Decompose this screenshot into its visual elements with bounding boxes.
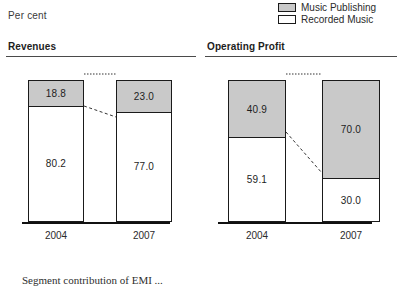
legend-label-recorded-music: Recorded Music (301, 14, 373, 25)
bar-value-music-publishing-2004: 40.9 (247, 104, 267, 115)
bar-revenues-2004[interactable]: 18.8 80.2 (28, 80, 84, 222)
bar-value-recorded-music-2004: 80.2 (46, 158, 66, 169)
chart-panel-operating-profit: 40.9 59.1 70.0 30.0 2004 2007 (200, 62, 402, 260)
bar-value-recorded-music-2007: 77.0 (134, 161, 154, 172)
bar-segment-music-publishing-2007[interactable]: 23.0 (116, 80, 172, 113)
bar-segment-recorded-music-2007[interactable]: 77.0 (116, 113, 172, 222)
legend-swatch-music-publishing (278, 3, 296, 12)
legend-swatch-recorded-music (278, 15, 296, 24)
tick-label-revenues-2007: 2007 (116, 230, 172, 241)
connector-split-dashed-operating-profit (286, 132, 322, 173)
axis-baseline-revenues (22, 222, 170, 224)
axis-baseline-operating-profit (218, 222, 372, 224)
plot-area-revenues: 18.8 80.2 23.0 77.0 2004 2007 (0, 62, 200, 242)
panel-rule-revenues (6, 56, 196, 57)
bar-segment-music-publishing-2004[interactable]: 40.9 (228, 80, 286, 138)
bar-value-recorded-music-2004: 59.1 (247, 174, 267, 185)
panel-heading-revenues: Revenues (8, 41, 56, 52)
bar-value-recorded-music-2007: 30.0 (341, 195, 361, 206)
legend-item-recorded-music: Recorded Music (278, 14, 396, 25)
bar-segment-music-publishing-2004[interactable]: 18.8 (28, 80, 84, 107)
bar-value-music-publishing-2007: 23.0 (134, 91, 154, 102)
tick-label-operating-profit-2007: 2007 (322, 230, 380, 241)
bar-segment-recorded-music-2004[interactable]: 59.1 (228, 138, 286, 222)
bar-operating-profit-2007[interactable]: 70.0 30.0 (322, 80, 380, 222)
chart-legend: Music Publishing Recorded Music (278, 2, 396, 26)
bar-value-music-publishing-2004: 18.8 (46, 88, 66, 99)
bar-revenues-2007[interactable]: 23.0 77.0 (116, 80, 172, 222)
unit-label: Per cent (8, 10, 47, 21)
chart-panel-revenues: 18.8 80.2 23.0 77.0 2004 2007 (0, 62, 200, 260)
panel-heading-operating-profit: Operating Profit (207, 41, 285, 52)
plot-area-operating-profit: 40.9 59.1 70.0 30.0 2004 2007 (200, 62, 402, 242)
bar-segment-music-publishing-2007[interactable]: 70.0 (322, 80, 380, 179)
legend-label-music-publishing: Music Publishing (301, 2, 376, 13)
bar-operating-profit-2004[interactable]: 40.9 59.1 (228, 80, 286, 222)
figure-caption: Segment contribution of EMI ... (22, 274, 163, 286)
connector-split-dashed-revenues (84, 106, 116, 117)
bar-value-music-publishing-2007: 70.0 (341, 124, 361, 135)
bar-segment-recorded-music-2007[interactable]: 30.0 (322, 179, 380, 222)
tick-label-revenues-2004: 2004 (28, 230, 84, 241)
legend-item-music-publishing: Music Publishing (278, 2, 396, 13)
tick-label-operating-profit-2004: 2004 (228, 230, 286, 241)
panel-rule-operating-profit (205, 56, 397, 57)
bar-segment-recorded-music-2004[interactable]: 80.2 (28, 107, 84, 222)
